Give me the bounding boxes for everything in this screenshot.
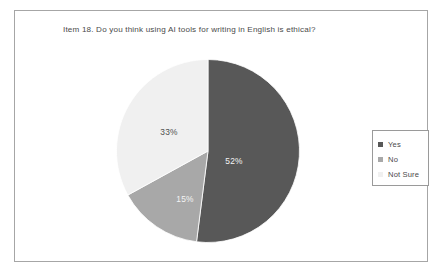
legend-label-no: No xyxy=(388,155,398,164)
legend-swatch-no-icon xyxy=(378,157,383,162)
pie-slice-group xyxy=(117,60,300,243)
chart-frame: Item 18. Do you think using AI tools for… xyxy=(14,10,428,262)
legend-swatch-yes-icon xyxy=(378,142,383,147)
chart-legend: Yes No Not Sure xyxy=(372,130,429,186)
legend-item-yes[interactable]: Yes xyxy=(378,137,428,152)
chart-title: Item 18. Do you think using AI tools for… xyxy=(63,24,316,35)
legend-item-no[interactable]: No xyxy=(378,152,428,167)
pie-svg: 52%15%33% xyxy=(116,59,300,243)
pie-chart: 52%15%33% xyxy=(116,59,300,243)
pie-slice-label-yes: 52% xyxy=(225,156,243,166)
legend-item-not-sure[interactable]: Not Sure xyxy=(378,167,428,182)
legend-swatch-not-sure-icon xyxy=(378,172,383,177)
pie-slice-label-no: 15% xyxy=(176,194,194,204)
legend-label-yes: Yes xyxy=(388,140,401,149)
legend-label-not-sure: Not Sure xyxy=(388,170,419,179)
pie-slice-label-not-sure: 33% xyxy=(160,127,178,137)
screenshot-root: Item 18. Do you think using AI tools for… xyxy=(0,0,443,276)
pie-slice-yes[interactable] xyxy=(197,60,300,243)
